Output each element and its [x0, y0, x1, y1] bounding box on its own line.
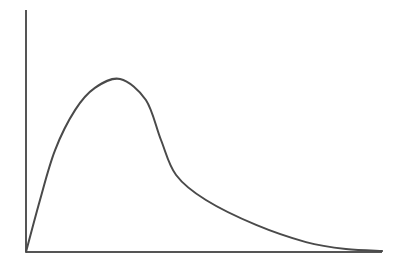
plot-area	[26, 10, 382, 252]
distribution-curve	[26, 79, 382, 252]
chart	[0, 0, 394, 269]
